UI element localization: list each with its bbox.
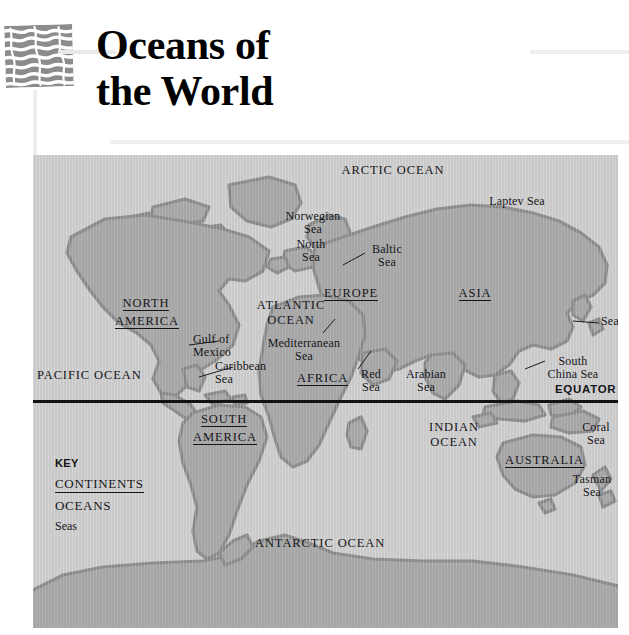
map-label-coral-sea: CoralSea — [575, 421, 617, 447]
page-title-line2: the World — [96, 68, 536, 114]
map-label-antarctic-ocean: ANTARCTIC OCEAN — [255, 537, 377, 550]
map-label-australia: AUSTRALIA — [505, 450, 571, 468]
key-oceans-label: OCEANS — [55, 498, 144, 514]
map-label-sea-of-japan: Sea of Japan — [601, 315, 618, 328]
map-label-south-china-sea: SouthChina Sea — [539, 355, 607, 381]
map-label-pacific-ocean: PACIFIC OCEAN — [37, 369, 137, 382]
map-label-north-sea: NorthSea — [289, 238, 333, 264]
map-label-north-america: NORTH AMERICA — [115, 293, 177, 329]
map-label-baltic-sea: BalticSea — [365, 243, 409, 269]
map-label-indian-ocean: INDIANOCEAN — [425, 420, 483, 450]
map-label-europe: EUROPE — [324, 283, 374, 301]
map-label-arabian-sea: ArabianSea — [401, 368, 451, 394]
header-rule-right — [530, 50, 629, 54]
key-title: KEY — [55, 457, 144, 469]
map-label-africa: AFRICA — [297, 368, 343, 386]
map-label-asia: ASIA — [458, 283, 492, 301]
map-label-tasman-sea: TasmanSea — [567, 473, 617, 499]
page-title-line1: Oceans of — [96, 22, 536, 68]
map-label-arctic-ocean: ARCTIC OCEAN — [338, 164, 448, 177]
map-key: KEY CONTINENTS OCEANS Seas — [55, 457, 144, 534]
map-label-norwegian-sea: NorwegianSea — [281, 210, 345, 236]
map-label-caribbean-sea: CaribbeanSea — [215, 360, 277, 386]
map-label-south-america: SOUTH AMERICA — [193, 409, 255, 445]
wave-pattern-icon — [4, 24, 74, 88]
page-header: Oceans of the World — [0, 0, 629, 155]
map-label-red-sea: RedSea — [355, 368, 387, 394]
map-label-gulf-of-mexico: Gulf ofMexico — [193, 333, 249, 359]
equator-line — [33, 400, 618, 403]
map-label-equator: EQUATOR — [555, 383, 617, 396]
map-label-mediterranean-sea: MediterraneanSea — [261, 337, 347, 363]
map-label-laptev-sea: Laptev Sea — [481, 195, 553, 208]
key-seas-label: Seas — [55, 519, 144, 534]
map-label-atlantic-ocean: ATLANTICOCEAN — [255, 298, 327, 328]
world-map: ARCTIC OCEAN ATLANTICOCEAN PACIFIC OCEAN… — [33, 155, 618, 628]
header-rule-bottom — [110, 140, 629, 144]
key-continents-label: CONTINENTS — [55, 476, 144, 493]
page-title: Oceans of the World — [96, 22, 536, 114]
